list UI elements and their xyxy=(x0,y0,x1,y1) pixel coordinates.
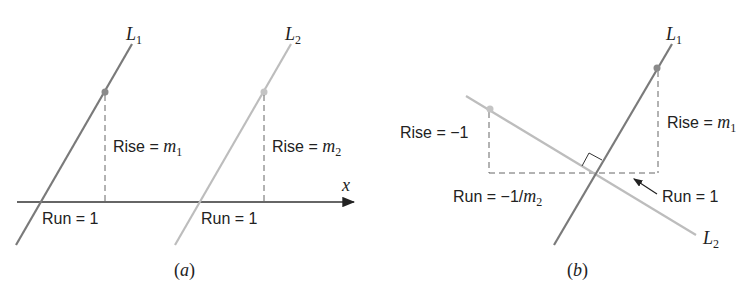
label-l2-b: L2 xyxy=(702,228,719,251)
run-label-l1: Run = 1 xyxy=(42,210,99,227)
label-l2-a: L2 xyxy=(284,24,301,47)
panel-a: x L1 L2 Rise = m1 Rise = m2 Run = 1 Run … xyxy=(16,24,354,281)
slope-diagram: x L1 L2 Rise = m1 Rise = m2 Run = 1 Run … xyxy=(0,0,755,299)
line-l1 xyxy=(554,44,672,245)
rise-label-m1: Rise = m1 xyxy=(113,136,182,159)
rise-label-m2: Rise = m2 xyxy=(272,136,341,159)
label-l1-b: L1 xyxy=(665,24,682,47)
run-label-l2: Run = 1 xyxy=(201,210,258,227)
point-l2 xyxy=(487,106,494,113)
point-l2 xyxy=(261,89,268,96)
run-label-right: Run = 1 xyxy=(662,188,719,205)
rise-label-right: Rise = m1 xyxy=(667,112,736,135)
line-l2 xyxy=(466,96,696,235)
run-pointer-arrow xyxy=(634,179,657,194)
caption-a: (a) xyxy=(174,260,195,281)
right-angle-marker xyxy=(582,153,602,166)
point-l1 xyxy=(654,65,661,72)
point-l1 xyxy=(102,89,109,96)
x-axis-label: x xyxy=(341,175,350,195)
run-label-left: Run = −1/m2 xyxy=(453,186,542,209)
caption-b: (b) xyxy=(567,260,588,281)
rise-label-left: Rise = −1 xyxy=(400,124,469,141)
panel-b: L2 L1 Rise = −1 Rise = m1 Run = −1/m2 Ru… xyxy=(400,24,736,281)
label-l1-a: L1 xyxy=(125,24,142,47)
